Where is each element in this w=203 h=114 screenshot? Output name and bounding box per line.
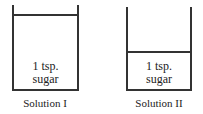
water-level-line-1 [14,14,77,16]
beaker-2-contents: 1 tsp. sugar [128,60,190,86]
contents-substance: sugar [14,73,77,86]
beaker-1: 1 tsp. sugar [12,5,79,91]
beaker-2: 1 tsp. sugar [126,7,192,91]
solution-2-label: Solution II [114,97,203,109]
beaker-1-contents: 1 tsp. sugar [14,60,77,86]
contents-substance: sugar [128,73,190,86]
water-level-line-2 [128,51,190,53]
solution-1-label: Solution I [0,97,90,109]
